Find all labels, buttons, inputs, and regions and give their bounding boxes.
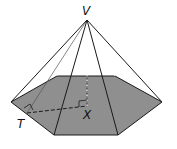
- label-x: X: [82, 108, 92, 122]
- hexagon-base: [11, 76, 162, 135]
- pyramid-diagram: V X T: [0, 0, 177, 149]
- label-v: V: [82, 4, 91, 18]
- label-t: T: [17, 117, 26, 131]
- hidden-edges: [57, 20, 115, 76]
